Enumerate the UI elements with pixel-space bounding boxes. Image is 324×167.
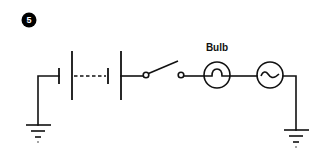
figure-number-badge: 5 (22, 13, 37, 28)
figure-number: 5 (26, 15, 31, 25)
bulb-icon (204, 62, 230, 88)
bulb-label: Bulb (206, 42, 228, 53)
ac-source-icon (257, 62, 283, 88)
ground-icon-left (26, 125, 51, 142)
switch-icon (143, 61, 184, 78)
circuit-diagram: 5 (0, 0, 324, 167)
right-wire (283, 76, 296, 130)
left-wire (38, 76, 59, 125)
battery-icon (59, 52, 121, 99)
ground-icon-right (284, 130, 309, 147)
